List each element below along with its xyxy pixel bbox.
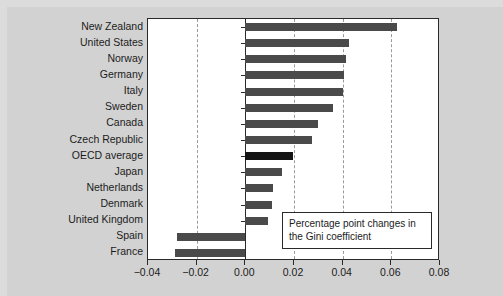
x-axis-tick [342, 260, 343, 265]
x-axis-tick-label: 0.06 [367, 266, 413, 278]
bar [245, 71, 344, 79]
bar [245, 217, 268, 225]
y-axis-tick-label: Czech Republic [0, 134, 143, 145]
y-axis-tick-label: Japan [0, 166, 143, 177]
bar [245, 88, 342, 96]
x-axis-tick [196, 260, 197, 265]
x-axis-tick [293, 260, 294, 265]
y-axis-tick-label: Italy [0, 85, 143, 96]
bar [245, 168, 282, 176]
x-axis-tick [147, 260, 148, 265]
x-axis-tick-label: 0.02 [270, 266, 316, 278]
y-axis-tick-label: France [0, 246, 143, 257]
y-axis-labels: New ZealandUnited StatesNorwayGermanyIta… [0, 18, 143, 260]
x-axis-tick-label: 0.08 [416, 266, 462, 278]
y-axis-tick-label: New Zealand [0, 21, 143, 32]
bar [175, 249, 246, 257]
bar [245, 23, 397, 31]
y-axis-tick-label: Netherlands [0, 182, 143, 193]
x-axis: −0.04−0.020.000.020.040.060.08 [147, 260, 439, 286]
y-axis-tick-label: Denmark [0, 198, 143, 209]
y-axis-tick-label: Norway [0, 53, 143, 64]
bar [177, 233, 245, 241]
legend-note-box: Percentage point changes in the Gini coe… [282, 212, 432, 249]
x-axis-tick-label: −0.04 [124, 266, 170, 278]
y-axis-tick-label: United Kingdom [0, 214, 143, 225]
legend-note-line-1: Percentage point changes in [289, 217, 425, 230]
x-axis-tick-label: 0.04 [319, 266, 365, 278]
gridline-−0.02 [197, 19, 198, 259]
x-axis-tick-label: −0.02 [173, 266, 219, 278]
y-axis-tick-label: Germany [0, 69, 143, 80]
y-axis-tick-label: OECD average [0, 150, 143, 161]
bar [245, 120, 318, 128]
bar [245, 104, 333, 112]
bar [245, 39, 348, 47]
bar [245, 184, 273, 192]
legend-note-line-2: the Gini coefficient [289, 230, 425, 243]
chart-figure: New ZealandUnited StatesNorwayGermanyIta… [0, 0, 503, 296]
x-axis-tick-label: 0.00 [221, 266, 267, 278]
bar [245, 201, 272, 209]
x-axis-tick [439, 260, 440, 265]
bar [245, 55, 346, 63]
y-axis-tick-label: United States [0, 37, 143, 48]
x-axis-tick [244, 260, 245, 265]
y-axis-tick-label: Sweden [0, 101, 143, 112]
bar [245, 136, 312, 144]
y-axis-tick-label: Canada [0, 117, 143, 128]
x-axis-tick [390, 260, 391, 265]
y-axis-tick-label: Spain [0, 230, 143, 241]
bar [245, 152, 292, 160]
